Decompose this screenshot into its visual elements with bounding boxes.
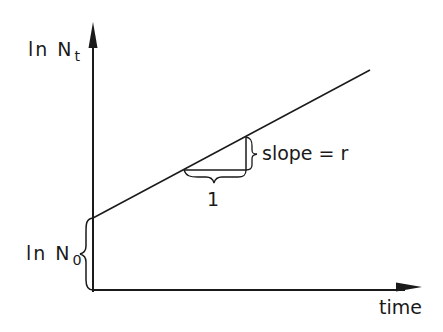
x-axis-arrow-icon bbox=[396, 283, 422, 292]
intercept-label-main: ln N bbox=[26, 242, 72, 264]
slope-label: slope = r bbox=[262, 144, 348, 163]
y-axis-arrow-icon bbox=[89, 22, 98, 48]
intercept-label-subscript: 0 bbox=[73, 252, 84, 268]
y-axis-label-subscript: t bbox=[75, 48, 83, 64]
x-axis-label: time bbox=[379, 298, 422, 317]
y-axis-label-main: ln N bbox=[28, 38, 74, 60]
run-label: 1 bbox=[207, 190, 219, 209]
y-axis-label: ln Nt bbox=[28, 40, 82, 59]
intercept-label: ln N0 bbox=[26, 244, 84, 263]
run-brace bbox=[184, 170, 246, 183]
rise-brace bbox=[246, 137, 257, 170]
